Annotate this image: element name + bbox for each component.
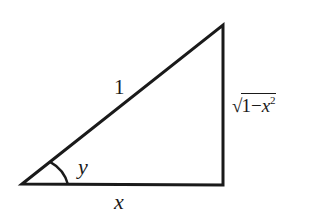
opposite-side-label: √1−x2 [232,95,276,115]
triangle-shape [22,25,223,185]
adjacent-side-label: x [114,191,124,213]
right-triangle-diagram [0,0,327,223]
hypotenuse-label: 1 [114,77,125,98]
radicand: 1−x2 [241,93,275,116]
angle-arc [50,162,68,184]
radicand-exponent: 2 [270,94,276,106]
radicand-variable: x [262,95,270,116]
radicand-base: 1− [241,95,261,116]
angle-label: y [78,156,88,178]
